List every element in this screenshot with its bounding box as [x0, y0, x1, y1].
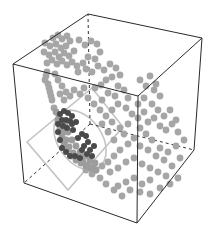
- data-point: [69, 137, 76, 144]
- data-point: [48, 93, 55, 100]
- data-point: [127, 187, 134, 194]
- cube-edge: [24, 183, 137, 223]
- data-point: [161, 113, 168, 120]
- data-point: [163, 173, 170, 180]
- data-point: [95, 63, 102, 70]
- data-point: [125, 121, 132, 128]
- data-point: [88, 38, 95, 45]
- data-point: [145, 147, 152, 154]
- data-point: [77, 91, 84, 98]
- data-point: [173, 143, 180, 150]
- data-point: [143, 131, 150, 138]
- data-point: [55, 129, 61, 135]
- data-point: [131, 135, 138, 142]
- data-point: [97, 107, 104, 114]
- data-point: [147, 191, 154, 198]
- data-point: [85, 95, 92, 102]
- data-point: [113, 65, 120, 72]
- data-point: [91, 143, 97, 149]
- data-point: [82, 42, 89, 49]
- data-point: [177, 155, 184, 162]
- data-point: [57, 91, 64, 98]
- data-point: [81, 85, 88, 92]
- cube-edge: [138, 38, 202, 96]
- data-point: [139, 161, 146, 168]
- data-point: [85, 54, 92, 61]
- data-point: [89, 69, 96, 76]
- data-point: [46, 85, 53, 92]
- data-point: [125, 95, 132, 102]
- data-point: [71, 48, 78, 55]
- data-point: [163, 127, 170, 134]
- data-point: [141, 109, 148, 116]
- data-point: [55, 77, 62, 84]
- data-point: [155, 107, 162, 114]
- data-point: [91, 101, 98, 108]
- data-point: [149, 137, 156, 144]
- data-point: [123, 105, 130, 112]
- data-point: [117, 72, 124, 79]
- data-point: [175, 175, 182, 182]
- data-point: [67, 93, 74, 100]
- data-point: [149, 101, 156, 108]
- data-point: [119, 193, 126, 200]
- data-point: [115, 165, 122, 172]
- data-point: [157, 93, 164, 100]
- data-point: [115, 83, 122, 90]
- data-point: [157, 123, 164, 130]
- data-point: [101, 67, 108, 74]
- data-point: [137, 77, 144, 84]
- data-point: [151, 87, 158, 94]
- data-point: [57, 137, 63, 143]
- data-point: [123, 179, 130, 186]
- data-point: [139, 181, 146, 188]
- data-point: [74, 63, 81, 70]
- data-point: [77, 155, 83, 161]
- data-point: [147, 177, 154, 184]
- data-point: [64, 125, 70, 131]
- data-point: [125, 141, 132, 148]
- data-point: [175, 129, 182, 136]
- data-point: [167, 107, 174, 114]
- data-point: [147, 165, 154, 172]
- data-point: [107, 169, 114, 176]
- data-point: [109, 107, 116, 114]
- data-point: [75, 69, 82, 76]
- data-point: [109, 74, 116, 81]
- data-point: [99, 97, 106, 104]
- data-point: [107, 61, 114, 68]
- data-point: [92, 56, 99, 63]
- data-point: [129, 111, 136, 118]
- data-point: [153, 153, 160, 160]
- data-point: [111, 187, 118, 194]
- data-point: [71, 87, 78, 94]
- data-point: [63, 137, 70, 144]
- data-point: [121, 131, 128, 138]
- data-point: [131, 175, 138, 182]
- data-point: [161, 157, 168, 164]
- cube-edge: [13, 64, 24, 183]
- data-point: [79, 147, 85, 153]
- cube-edge: [194, 38, 202, 150]
- data-point: [169, 163, 176, 170]
- data-point: [47, 43, 54, 50]
- data-point: [97, 175, 104, 182]
- data-point: [117, 147, 124, 154]
- data-point: [145, 119, 152, 126]
- data-point: [111, 137, 118, 144]
- data-point: [99, 163, 106, 170]
- data-point: [80, 60, 87, 67]
- data-point: [67, 38, 74, 45]
- data-point: [105, 159, 112, 166]
- data-point: [109, 119, 116, 126]
- data-point: [97, 49, 104, 56]
- data-point: [111, 153, 118, 160]
- data-point: [103, 113, 110, 120]
- data-point: [84, 151, 90, 157]
- data-point: [105, 129, 112, 136]
- data-point: [83, 133, 89, 139]
- data-point: [131, 155, 138, 162]
- cube-edge: [88, 14, 202, 38]
- data-point: [73, 119, 79, 125]
- data-point: [123, 159, 130, 166]
